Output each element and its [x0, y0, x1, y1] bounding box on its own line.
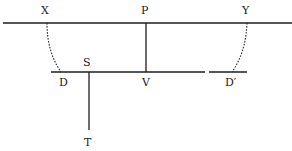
- label-d-prime: D′: [225, 76, 237, 89]
- label-t: T: [84, 136, 92, 149]
- label-y: Y: [241, 4, 250, 17]
- label-v: V: [141, 76, 151, 89]
- arc-xd: [47, 23, 61, 72]
- label-p: P: [141, 4, 149, 17]
- label-d: D: [59, 76, 68, 89]
- arc-yd-prime: [232, 23, 247, 72]
- label-x: X: [41, 4, 49, 17]
- geometry-diagram: X P Y S D V D′ T: [0, 0, 292, 151]
- label-s: S: [83, 56, 91, 69]
